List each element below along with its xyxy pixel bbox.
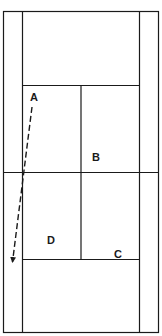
label-a: A: [30, 91, 38, 103]
label-b: B: [92, 151, 100, 163]
label-d: D: [47, 234, 55, 246]
label-c: C: [114, 248, 122, 260]
tennis-court-diagram: A B C D: [0, 0, 162, 336]
